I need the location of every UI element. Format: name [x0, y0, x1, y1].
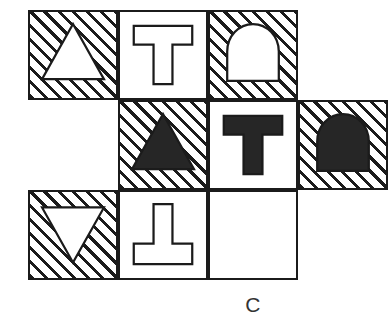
grid-cell-r2c4 — [298, 100, 388, 190]
grid-cell-r1c2 — [118, 10, 208, 100]
grid-cell-r3c2 — [118, 190, 208, 280]
triangle-up-white-icon — [30, 12, 116, 98]
tee-up-black-icon — [210, 102, 296, 188]
grid-cell-r1c3 — [208, 10, 298, 100]
tee-up-white-icon — [120, 12, 206, 98]
grid-cell-r2c3 — [208, 100, 298, 190]
grid-cell-r1c1 — [28, 10, 118, 100]
dome-black-icon — [300, 102, 386, 188]
tee-down-white-icon — [120, 192, 206, 278]
triangle-down-white-icon — [30, 192, 116, 278]
figure-caption: C — [208, 294, 298, 315]
grid-cell-r3c3 — [208, 190, 298, 280]
grid-cell-r3c1 — [28, 190, 118, 280]
grid-cell-r2c2 — [118, 100, 208, 190]
dome-white-icon — [210, 12, 296, 98]
puzzle-figure — [0, 0, 390, 323]
triangle-up-black-icon — [120, 102, 206, 188]
